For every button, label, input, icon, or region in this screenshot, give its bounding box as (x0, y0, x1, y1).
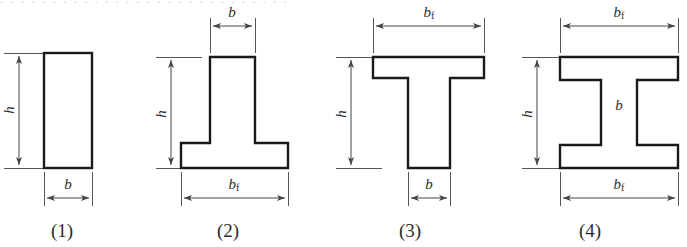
shape-4-bf-top-base: b (614, 4, 622, 20)
shape-2-bf-base: b (229, 176, 237, 192)
shape-2-caption: (2) (217, 220, 239, 242)
shape-4-height-label: h (519, 110, 536, 118)
shape-2-web-width-label: b (228, 4, 236, 21)
shape-4-caption: (4) (579, 220, 601, 242)
shape-1-outline (44, 53, 92, 168)
shape-4-bottom-flange-width-label: bf (614, 176, 625, 193)
shape-3-web-width-label: b (425, 176, 433, 193)
shape-2-bf-sub: f (236, 182, 239, 193)
shape-3-flange-width-label: bf (424, 4, 435, 21)
shape-3-outline (373, 57, 484, 168)
shape-3-height-label: h (333, 110, 350, 118)
figure-root: . . . . . . . . . . . . . . . . . . . . … (0, 0, 687, 247)
shape-2-outline (181, 57, 288, 168)
shape-4-top-flange-width-label: bf (614, 4, 625, 21)
shape-4-web-width-label: b (615, 97, 623, 114)
shape-1-width-label: b (64, 176, 72, 193)
shape-3-caption: (3) (399, 220, 421, 242)
shape-3-bf-base: b (424, 4, 432, 20)
shape-4-bf-bottom-sub: f (621, 182, 624, 193)
shape-1-height-label: h (1, 106, 18, 114)
shape-4-bf-top-sub: f (621, 10, 624, 21)
shape-3-bf-sub: f (431, 10, 434, 21)
shape-4-bf-bottom-base: b (614, 176, 622, 192)
shape-1-caption: (1) (51, 220, 73, 242)
shape-2-height-label: h (153, 110, 170, 118)
cross-section-figure-svg (0, 0, 687, 247)
shape-2-flange-width-label: bf (229, 176, 240, 193)
